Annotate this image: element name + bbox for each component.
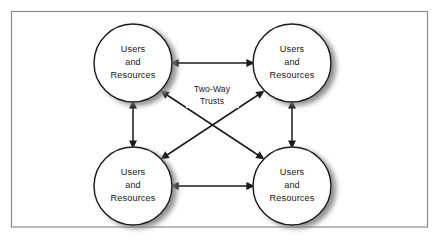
node-label-line2: and xyxy=(125,57,141,67)
node-label-line3: Resources xyxy=(270,70,315,80)
node-top-left[interactable]: Users and Resources xyxy=(94,24,172,102)
node-label-line1: Users xyxy=(280,167,305,177)
node-label-line2: and xyxy=(125,180,141,190)
node-label-line3: Resources xyxy=(270,193,315,203)
trust-label-line2: Trusts xyxy=(200,96,224,106)
node-label-line2: and xyxy=(284,180,300,190)
diagram-canvas: Users and Resources Users and Resources … xyxy=(0,0,440,244)
node-label-line1: Users xyxy=(121,167,146,177)
node-bottom-right[interactable]: Users and Resources xyxy=(253,147,331,225)
node-label-line1: Users xyxy=(121,44,146,54)
node-bottom-left[interactable]: Users and Resources xyxy=(94,147,172,225)
node-label-line3: Resources xyxy=(111,193,156,203)
trust-label-line1: Two-Way xyxy=(194,84,231,94)
node-label-line2: and xyxy=(284,57,300,67)
node-top-right[interactable]: Users and Resources xyxy=(253,24,331,102)
diagram-frame xyxy=(12,12,428,228)
node-label-line1: Users xyxy=(280,44,305,54)
trust-relationship-diagram: Users and Resources Users and Resources … xyxy=(0,0,440,244)
node-label-line3: Resources xyxy=(111,70,156,80)
trust-label: Two-Way Trusts xyxy=(186,83,239,108)
